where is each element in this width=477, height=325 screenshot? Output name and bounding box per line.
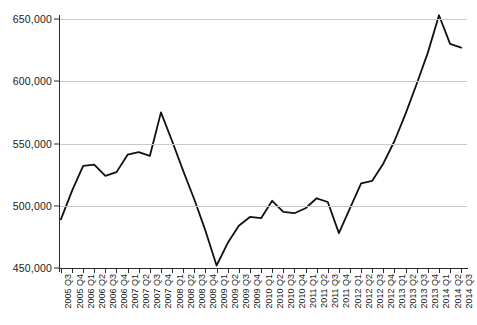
y-axis-tick-label: 550,000 — [13, 138, 52, 150]
x-axis-tick-label: 2008 Q1 — [176, 274, 185, 309]
y-axis-tick-mark — [54, 205, 60, 206]
x-axis-tick-mark — [417, 268, 418, 273]
x-axis-tick-label: 2009 Q3 — [242, 274, 251, 309]
y-axis-tick-mark — [54, 81, 60, 82]
x-axis-tick-mark — [372, 268, 373, 273]
x-axis-tick-mark — [428, 268, 429, 273]
x-axis-tick-mark — [61, 268, 62, 273]
x-axis-tick-labels: 2005 Q32005 Q42006 Q12006 Q22006 Q32006 … — [60, 274, 467, 325]
x-axis-tick-label: 2008 Q3 — [198, 274, 207, 309]
x-axis-tick-mark — [94, 268, 95, 273]
x-axis-tick-mark — [161, 268, 162, 273]
y-axis-tick-mark — [54, 19, 60, 20]
x-axis-tick-label: 2010 Q1 — [265, 274, 274, 309]
x-axis-tick-label: 2006 Q1 — [87, 274, 96, 309]
x-axis-tick-mark — [339, 268, 340, 273]
x-axis-tick-label: 2006 Q4 — [120, 274, 129, 309]
x-axis-tick-mark — [283, 268, 284, 273]
x-axis-tick-label: 2014 Q1 — [442, 274, 451, 309]
x-axis-tick-mark — [350, 268, 351, 273]
x-axis-tick-mark — [450, 268, 451, 273]
x-axis-tick-label: 2008 Q4 — [209, 274, 218, 309]
y-axis-tick-label: 650,000 — [13, 13, 52, 25]
y-axis-tick-mark — [54, 143, 60, 144]
x-axis-line — [59, 268, 468, 269]
x-axis-tick-label: 2010 Q3 — [287, 274, 296, 309]
x-axis-tick-mark — [205, 268, 206, 273]
x-axis-tick-label: 2005 Q4 — [76, 274, 85, 309]
gridline — [60, 81, 467, 82]
x-axis-tick-mark — [83, 268, 84, 273]
x-axis-tick-label: 2007 Q4 — [164, 274, 173, 309]
x-axis-tick-label: 2010 Q2 — [276, 274, 285, 309]
gridline — [60, 206, 467, 207]
x-axis-tick-label: 2009 Q2 — [231, 274, 240, 309]
x-axis-tick-mark — [439, 268, 440, 273]
series-1-polyline — [61, 15, 461, 265]
x-axis-tick-mark — [406, 268, 407, 273]
x-axis-tick-mark — [105, 268, 106, 273]
x-axis-tick-label: 2011 Q2 — [320, 274, 329, 308]
x-axis-tick-label: 2005 Q3 — [64, 274, 73, 309]
x-axis-tick-label: 2013 Q1 — [398, 274, 407, 309]
x-axis-tick-mark — [261, 268, 262, 273]
x-axis-tick-mark — [328, 268, 329, 273]
x-axis-tick-mark — [294, 268, 295, 273]
x-axis-tick-label: 2012 Q1 — [354, 274, 363, 309]
x-axis-tick-mark — [383, 268, 384, 273]
x-axis-tick-mark — [461, 268, 462, 273]
x-axis-tick-label: 2012 Q4 — [387, 274, 396, 309]
x-axis-tick-label: 2008 Q2 — [187, 274, 196, 309]
x-axis-tick-label: 2014 Q2 — [454, 274, 463, 309]
x-axis-tick-label: 2007 Q2 — [142, 274, 151, 309]
x-axis-tick-mark — [217, 268, 218, 273]
x-axis-tick-label: 2006 Q2 — [98, 274, 107, 309]
gridline — [60, 19, 467, 20]
y-axis-tick-label: 450,000 — [13, 262, 52, 274]
x-axis-tick-mark — [183, 268, 184, 273]
x-axis-tick-mark — [128, 268, 129, 273]
x-axis-tick-mark — [361, 268, 362, 273]
x-axis-tick-label: 2009 Q1 — [220, 274, 229, 309]
line-chart: 450,000500,000550,000600,000650,000 2005… — [0, 0, 477, 325]
x-axis-tick-mark — [172, 268, 173, 273]
x-axis-tick-mark — [317, 268, 318, 273]
x-axis-tick-label: 2012 Q3 — [376, 274, 385, 309]
plot-area — [60, 19, 467, 268]
x-axis-tick-label: 2013 Q4 — [431, 274, 440, 309]
x-axis-tick-label: 2006 Q3 — [109, 274, 118, 309]
x-axis-tick-mark — [150, 268, 151, 273]
x-axis-tick-mark — [394, 268, 395, 273]
x-axis-tick-label: 2013 Q3 — [420, 274, 429, 309]
x-axis-tick-label: 2007 Q1 — [131, 274, 140, 309]
x-axis-tick-label: 2011 Q4 — [342, 274, 351, 308]
y-axis-tick-mark — [54, 268, 60, 269]
x-axis-tick-mark — [228, 268, 229, 273]
x-axis-tick-mark — [116, 268, 117, 273]
x-axis-tick-label: 2014 Q3 — [465, 274, 474, 309]
x-axis-tick-label: 2011 Q1 — [309, 274, 318, 308]
x-axis-tick-label: 2011 Q3 — [331, 274, 340, 308]
y-axis-tick-label: 600,000 — [13, 75, 52, 87]
gridline — [60, 144, 467, 145]
x-axis-tick-label: 2013 Q2 — [409, 274, 418, 309]
y-axis-tick-labels: 450,000500,000550,000600,000650,000 — [0, 0, 52, 325]
x-axis-tick-mark — [139, 268, 140, 273]
x-axis-tick-mark — [306, 268, 307, 273]
x-axis-tick-label: 2009 Q4 — [253, 274, 262, 309]
x-axis-tick-mark — [272, 268, 273, 273]
y-axis-tick-label: 500,000 — [13, 200, 52, 212]
x-axis-tick-mark — [72, 268, 73, 273]
x-axis-tick-label: 2010 Q4 — [298, 274, 307, 309]
x-axis-tick-mark — [239, 268, 240, 273]
x-axis-tick-mark — [194, 268, 195, 273]
x-axis-tick-label: 2007 Q3 — [153, 274, 162, 309]
x-axis-tick-mark — [250, 268, 251, 273]
x-axis-tick-label: 2012 Q2 — [365, 274, 374, 309]
